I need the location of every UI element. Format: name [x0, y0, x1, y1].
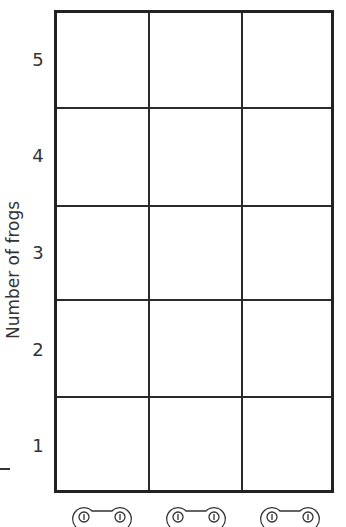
y-tick-4: 4 [28, 146, 48, 166]
y-tick-3: 3 [28, 243, 48, 263]
column-divider [241, 13, 243, 490]
y-tick-2: 2 [28, 340, 48, 360]
axis-marker [0, 468, 10, 470]
row-divider [57, 299, 331, 301]
chart-grid [54, 10, 334, 493]
y-tick-5: 5 [28, 50, 48, 70]
frog-icon [260, 503, 320, 527]
column-divider [148, 13, 150, 490]
frog-icon [166, 503, 226, 527]
row-divider [57, 396, 331, 398]
row-divider [57, 107, 331, 109]
y-tick-1: 1 [28, 436, 48, 456]
y-axis-label: Number of frogs [3, 201, 23, 339]
frog-icon [72, 503, 132, 527]
row-divider [57, 205, 331, 207]
